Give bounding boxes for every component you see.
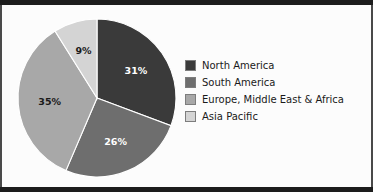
pie-slice-label-south-america: 26% [104, 136, 127, 147]
legend-label-asia-pacific: Asia Pacific [202, 111, 258, 122]
pie-slice-label-europe-mea: 35% [38, 96, 61, 107]
frame-bottom-rule [0, 187, 373, 192]
chart-legend: North America South America Europe, Midd… [185, 57, 365, 125]
legend-item-europe-mea[interactable]: Europe, Middle East & Africa [185, 91, 365, 108]
legend-swatch-europe-mea [185, 94, 196, 105]
legend-item-north-america[interactable]: North America [185, 57, 365, 74]
legend-label-europe-mea: Europe, Middle East & Africa [202, 94, 344, 105]
legend-swatch-south-america [185, 77, 196, 88]
legend-label-north-america: North America [202, 60, 274, 71]
legend-item-asia-pacific[interactable]: Asia Pacific [185, 108, 365, 125]
pie-slice-label-north-america: 31% [125, 65, 148, 76]
legend-swatch-asia-pacific [185, 111, 196, 122]
plot-area: 31%26%35%9% North America South America … [2, 5, 371, 187]
legend-item-south-america[interactable]: South America [185, 74, 365, 91]
pie-slice-label-asia-pacific: 9% [75, 45, 92, 56]
legend-swatch-north-america [185, 60, 196, 71]
legend-label-south-america: South America [202, 77, 276, 88]
pie-chart-figure: 31%26%35%9% North America South America … [0, 0, 373, 192]
